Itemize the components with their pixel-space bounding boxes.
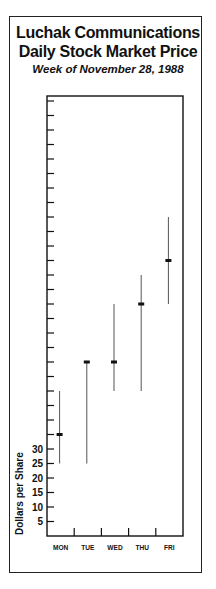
x-tick-label-tue: TUE (81, 542, 94, 552)
y-tick-label: 25 (32, 458, 44, 469)
close-marker-fri (165, 259, 171, 262)
close-marker-tue (84, 361, 90, 364)
close-marker-wed (111, 361, 117, 364)
x-tick-label-thu: THU (135, 542, 148, 552)
x-tick-label-mon: MON (53, 542, 68, 552)
y-tick-label: 5 (37, 516, 43, 527)
y-tick-label: 15 (32, 487, 44, 498)
close-marker-mon (57, 433, 63, 436)
plot-area-border (47, 96, 183, 536)
x-tick-label-wed: WED (107, 542, 122, 552)
y-tick-label: 30 (32, 444, 44, 455)
y-tick-label: 10 (32, 502, 44, 513)
hlc-plot: 51015202530MONTUEWEDTHUFRI (0, 0, 216, 589)
y-tick-label: 20 (32, 473, 44, 484)
x-tick-label-fri: FRI (164, 542, 175, 552)
close-marker-thu (138, 303, 144, 306)
